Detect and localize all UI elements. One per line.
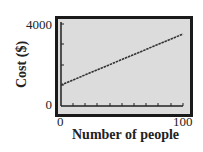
y-tick-max: 4000 bbox=[24, 17, 52, 33]
cost-line bbox=[61, 34, 183, 85]
x-tick-min: 0 bbox=[57, 114, 64, 130]
y-tick-min: 0 bbox=[24, 97, 52, 113]
x-axis-label: Number of people bbox=[72, 127, 179, 143]
y-axis-label: Cost ($) bbox=[14, 41, 30, 88]
